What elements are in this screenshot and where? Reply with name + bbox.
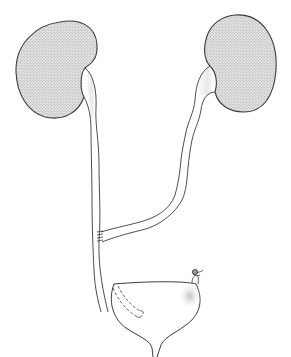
left-kidney: [16, 21, 97, 118]
intramural-ureter-dashed: [113, 286, 140, 316]
right-kidney: [205, 15, 277, 112]
anastomosis-sutures: [97, 231, 103, 241]
diagram-svg: [0, 0, 291, 357]
ligated-ureter-stump: [192, 269, 203, 284]
ureter-orifice: [136, 311, 143, 318]
urinary-tract-diagram: [0, 0, 291, 357]
right-ureter: [101, 66, 215, 242]
left-ureter: [84, 68, 108, 312]
bladder: [111, 282, 202, 357]
